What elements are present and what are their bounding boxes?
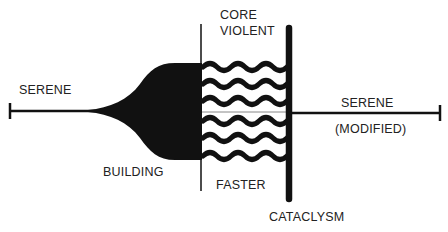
wave-5 bbox=[203, 135, 289, 142]
label-serene-right: SERENE bbox=[341, 96, 394, 110]
wave-6 bbox=[203, 153, 289, 160]
label-building: BUILDING bbox=[103, 165, 164, 179]
label-modified: (MODIFIED) bbox=[335, 122, 406, 136]
building-flare-shape bbox=[88, 63, 202, 160]
label-core: CORE bbox=[220, 8, 257, 22]
label-cataclysm: CATACLYSM bbox=[269, 210, 344, 224]
wave-2 bbox=[203, 81, 289, 88]
label-violent: VIOLENT bbox=[220, 24, 275, 38]
wave-1 bbox=[203, 64, 289, 71]
label-faster: FASTER bbox=[216, 178, 266, 192]
wave-4 bbox=[203, 118, 289, 125]
wave-3 bbox=[203, 98, 289, 105]
label-serene-left: SERENE bbox=[19, 83, 72, 97]
